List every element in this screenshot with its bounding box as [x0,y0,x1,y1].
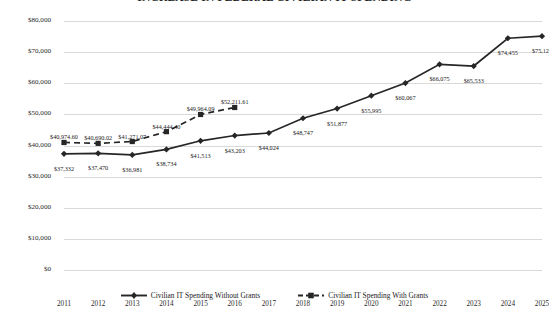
data-point-marker [129,152,135,158]
data-point-label: $55,995 [361,108,381,114]
x-axis-tick-label: 2023 [467,300,481,308]
data-point-label: $37,470 [88,165,108,171]
x-axis-tick-label: 2025 [535,300,549,308]
data-point-marker [61,151,67,157]
gridline [64,270,542,271]
data-point-marker [95,150,101,156]
data-point-label: $49,964.09 [187,106,215,112]
data-point-label: $60,067 [395,95,415,101]
data-point-marker [197,138,203,144]
x-axis-tick-label: 2011 [57,300,71,308]
legend-swatch-dashed-square-icon [298,291,324,300]
plot-area: $80,000$70,000$60,000$50,000$40,000$30,0… [64,21,542,270]
legend-label-with-grants: Civilian IT Spending With Grants [328,291,428,300]
x-axis-tick-label: 2016 [228,300,242,308]
legend-label-without-grants: Civilian IT Spending Without Grants [151,291,260,300]
y-axis-tick-label: $10,000 [0,235,51,242]
y-axis-tick-label: $70,000 [0,48,51,55]
y-axis-tick-label: $60,000 [0,79,51,86]
data-point-marker [163,146,169,152]
chart-title: INCREASE IN FEDERAL CIVILIAN IT SPENDING [0,0,549,3]
x-axis-tick-label: 2012 [91,300,105,308]
x-axis-tick-label: 2021 [398,300,412,308]
legend-entry-without-grants[interactable]: Civilian IT Spending Without Grants [121,291,260,300]
data-point-marker [266,130,272,136]
series-lines-group [64,21,542,270]
data-point-label: $40,974.60 [50,134,78,140]
x-axis-tick-label: 2014 [159,300,173,308]
chart-legend: Civilian IT Spending Without Grants Civi… [0,291,549,300]
data-point-marker [232,132,238,138]
data-point-label: $74,455 [498,50,518,56]
data-point-label: $52,211.61 [221,99,249,105]
data-point-label: $41,513 [191,153,211,159]
data-point-label: $48,747 [293,130,313,136]
x-axis-tick-label: 2013 [125,300,139,308]
y-axis-tick-label: $50,000 [0,110,51,117]
data-point-label: $40,690.02 [84,135,112,141]
data-point-marker [436,61,442,67]
data-point-marker [300,115,306,121]
y-axis-tick-label: $40,000 [0,142,51,149]
x-axis-tick-label: 2024 [501,300,515,308]
x-axis-tick-label: 2017 [262,300,276,308]
data-point-label: $44,444.40 [153,124,181,130]
data-point-label: $41,271.07 [118,134,146,140]
x-axis-tick-label: 2022 [432,300,446,308]
x-axis-tick-label: 2018 [296,300,310,308]
data-point-label: $36,981 [122,167,142,173]
data-point-marker [334,105,340,111]
data-point-label: $75,128 [532,48,549,54]
data-point-label: $37,332 [54,166,74,172]
chart-container: INCREASE IN FEDERAL CIVILIAN IT SPENDING… [0,0,549,311]
x-axis-tick-label: 2019 [330,300,344,308]
y-axis-tick-label: $80,000 [0,17,51,24]
x-axis-tick-label: 2015 [193,300,207,308]
data-point-marker [539,33,545,39]
y-axis-tick-label: $30,000 [0,173,51,180]
data-point-label: $66,075 [430,76,450,82]
y-axis-tick-label: $20,000 [0,204,51,211]
legend-entry-with-grants[interactable]: Civilian IT Spending With Grants [298,291,428,300]
x-axis-tick-label: 2020 [364,300,378,308]
data-point-marker [402,80,408,86]
data-point-label: $43,203 [225,148,245,154]
data-point-label: $51,877 [327,121,347,127]
data-point-label: $38,734 [156,161,176,167]
y-axis-tick-label: $0 [0,266,51,273]
data-point-label: $65,533 [464,78,484,84]
data-point-label: $44,024 [259,145,279,151]
legend-swatch-solid-diamond-icon [121,291,147,300]
data-point-marker [368,93,374,99]
